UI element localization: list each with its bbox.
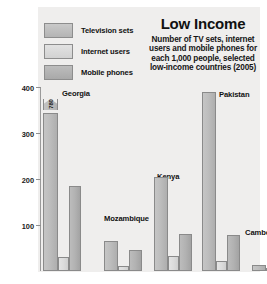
bar-cambodia-television-sets[interactable] (252, 265, 266, 271)
bar-georgia-mobile-phones[interactable] (69, 186, 81, 271)
bar-mozambique-internet-users[interactable] (118, 266, 129, 271)
bar-georgia-television-sets[interactable] (43, 113, 58, 271)
bar-kenya-mobile-phones[interactable] (179, 234, 192, 271)
legend-item-internet-users[interactable]: Internet users (44, 43, 133, 60)
bar-pakistan-mobile-phones[interactable] (227, 235, 240, 271)
chart-canvas: Low Income Number of TV sets, internet u… (0, 0, 267, 284)
y-tick-label-200: 200 (4, 176, 34, 185)
bar-group-pakistan: Pakistan (201, 87, 243, 271)
legend-item-mobile-phones[interactable]: Mobile phones (44, 64, 133, 81)
title-block: Low Income Number of TV sets, internet u… (146, 16, 260, 73)
bar-pakistan-internet-users[interactable] (216, 261, 227, 271)
bar-group-mozambique: Mozambique (103, 87, 145, 271)
legend-label-mobile-phones: Mobile phones (81, 68, 133, 77)
chart-subtitle: Number of TV sets, internet users and mo… (146, 35, 260, 73)
y-tick-label-100: 100 (4, 222, 34, 231)
country-label-mozambique: Mozambique (104, 214, 149, 223)
chart-title: Low Income (146, 16, 260, 32)
bar-mozambique-mobile-phones[interactable] (129, 250, 142, 271)
country-label-cambodia: Cambodia (245, 228, 267, 237)
legend: Television sets Internet users Mobile ph… (44, 22, 133, 85)
bar-kenya-internet-users[interactable] (168, 256, 179, 271)
bar-pakistan-television-sets[interactable] (202, 92, 216, 271)
bars-area: Georgia 780 Mozambique Kenya Pakist (41, 87, 260, 271)
bar-cambodia-internet-users[interactable] (266, 268, 267, 271)
y-tick-label-300: 300 (4, 130, 34, 139)
bottom-margin (0, 272, 267, 284)
legend-swatch-television-sets (44, 23, 73, 38)
country-label-georgia: Georgia (62, 89, 90, 98)
legend-swatch-mobile-phones (44, 65, 73, 80)
top-margin (0, 0, 267, 7)
bar-group-georgia: Georgia 780 (42, 87, 82, 271)
legend-label-television-sets: Television sets (81, 26, 133, 35)
bar-group-cambodia: Cambodia (251, 87, 267, 271)
bar-kenya-television-sets[interactable] (154, 177, 168, 271)
y-axis-labels: 400 300 200 100 (0, 0, 34, 284)
country-label-pakistan: Pakistan (219, 90, 249, 99)
legend-label-internet-users: Internet users (81, 47, 130, 56)
bar-value-label-georgia-television-sets: 780 (48, 98, 54, 111)
bar-georgia-internet-users[interactable] (58, 257, 69, 271)
bar-group-kenya: Kenya (153, 87, 195, 271)
legend-item-television-sets[interactable]: Television sets (44, 22, 133, 39)
legend-swatch-internet-users (44, 44, 73, 59)
y-tick-label-400: 400 (4, 84, 34, 93)
bar-mozambique-television-sets[interactable] (104, 241, 118, 271)
